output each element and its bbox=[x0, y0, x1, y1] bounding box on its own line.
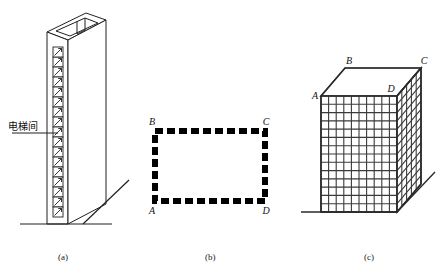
elevator-door-column bbox=[53, 47, 63, 217]
elevator-room-label: 电梯间 bbox=[8, 118, 38, 133]
panel-b-plan: B C A D bbox=[148, 116, 270, 216]
tower-side-face bbox=[68, 20, 106, 224]
plan-label-D: D bbox=[261, 205, 270, 216]
elevator-door bbox=[53, 177, 63, 187]
figure-root: B C A D bbox=[0, 0, 441, 279]
elevator-door bbox=[53, 77, 63, 87]
elevator-door bbox=[53, 117, 63, 127]
elevator-door bbox=[53, 97, 63, 107]
caption-b: (b) bbox=[205, 252, 216, 262]
elevator-door bbox=[53, 167, 63, 177]
elevator-door bbox=[53, 107, 63, 117]
elevator-door bbox=[53, 147, 63, 157]
elevator-door bbox=[53, 87, 63, 97]
plan-label-B: B bbox=[149, 116, 155, 127]
elevator-door bbox=[53, 207, 63, 217]
box-label-B: B bbox=[346, 55, 352, 66]
caption-c: (c) bbox=[364, 252, 374, 262]
box-label-C: C bbox=[421, 55, 428, 66]
elevator-door bbox=[53, 187, 63, 197]
elevator-door bbox=[53, 137, 63, 147]
figure-svg: B C A D bbox=[0, 0, 441, 279]
panel-c-box: B C A D bbox=[301, 55, 435, 212]
plan-label-A: A bbox=[148, 205, 156, 216]
elevator-door bbox=[53, 67, 63, 77]
caption-a: (a) bbox=[58, 252, 68, 262]
plan-dashed-rectangle bbox=[155, 131, 265, 201]
box-label-D: D bbox=[386, 83, 395, 94]
elevator-door bbox=[53, 197, 63, 207]
elevator-door bbox=[53, 47, 63, 57]
plan-label-C: C bbox=[263, 116, 270, 127]
elevator-door bbox=[53, 157, 63, 167]
elevator-door bbox=[53, 57, 63, 67]
elevator-door bbox=[53, 127, 63, 137]
box-label-A: A bbox=[311, 90, 319, 101]
